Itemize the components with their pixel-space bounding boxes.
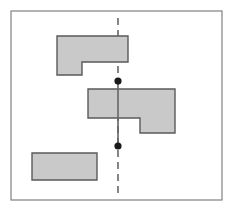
marker-upper-dot [114,77,121,84]
marker-lower-dot [114,142,121,149]
diagram-canvas: Shapes with a dashed vertical axis [0,0,232,211]
shape-bottom-rect [32,153,97,180]
figure-root: Shapes with a dashed vertical axis [0,0,232,211]
